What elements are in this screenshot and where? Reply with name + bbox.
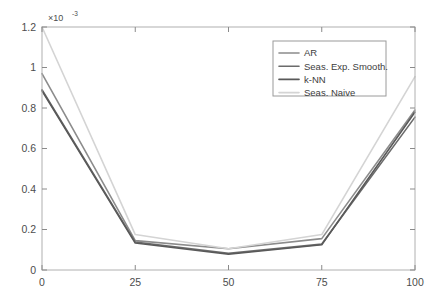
y-tick-label: 0.2 bbox=[21, 223, 36, 235]
line-chart: 00.20.40.60.811.2 0255075100 ×10 -3 ARSe… bbox=[0, 0, 438, 302]
legend-label-2: k-NN bbox=[304, 74, 326, 85]
x-tick-label: 100 bbox=[406, 276, 424, 288]
x-tick-label: 0 bbox=[39, 276, 45, 288]
x-tick-label: 25 bbox=[129, 276, 141, 288]
x-tick-label: 50 bbox=[223, 276, 235, 288]
y-axis-multiplier-exponent: -3 bbox=[72, 10, 78, 17]
legend-label-1: Seas. Exp. Smooth. bbox=[304, 61, 388, 72]
y-tick-label: 0 bbox=[30, 264, 36, 276]
figure-canvas: 00.20.40.60.811.2 0255075100 ×10 -3 ARSe… bbox=[0, 0, 438, 302]
y-axis-multiplier-base: ×10 bbox=[48, 13, 63, 23]
y-axis-tick-labels: 00.20.40.60.811.2 bbox=[21, 21, 36, 276]
legend-label-0: AR bbox=[304, 47, 317, 58]
x-axis-tick-labels: 0255075100 bbox=[39, 276, 424, 288]
y-tick-label: 0.8 bbox=[21, 102, 36, 114]
y-tick-label: 0.6 bbox=[21, 142, 36, 154]
y-axis-multiplier: ×10 -3 bbox=[48, 10, 78, 23]
y-tick-label: 1 bbox=[30, 61, 36, 73]
y-tick-label: 0.4 bbox=[21, 183, 36, 195]
legend[interactable]: ARSeas. Exp. Smooth.k-NNSeas. Naive bbox=[273, 41, 388, 98]
y-tick-label: 1.2 bbox=[21, 21, 36, 33]
x-tick-label: 75 bbox=[316, 276, 328, 288]
legend-label-3: Seas. Naive bbox=[304, 87, 355, 98]
